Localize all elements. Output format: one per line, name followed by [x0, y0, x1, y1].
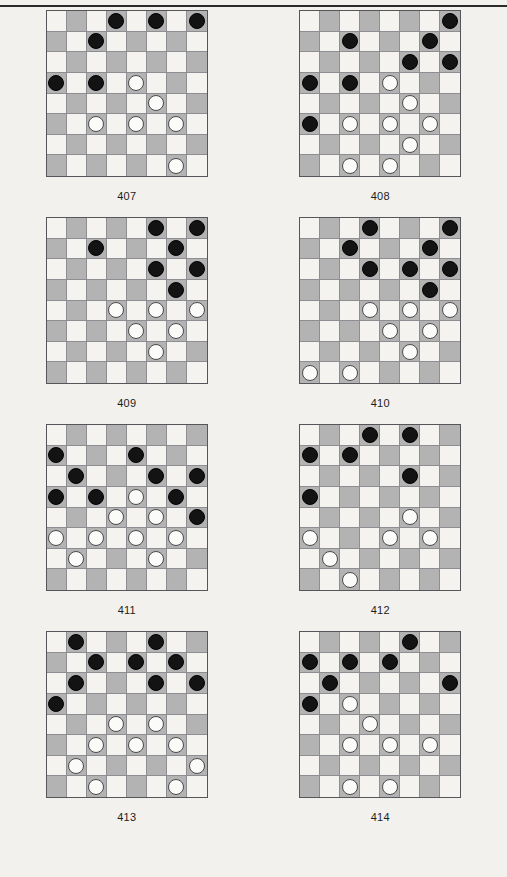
board-square[interactable] [187, 776, 207, 797]
board-square[interactable] [440, 776, 460, 797]
board-square[interactable] [320, 569, 340, 590]
board-square[interactable] [440, 653, 460, 674]
board-square[interactable] [400, 549, 420, 570]
checkers-board[interactable] [46, 10, 208, 177]
board-square[interactable] [340, 446, 360, 467]
board-square[interactable] [167, 280, 187, 301]
board-square[interactable] [380, 446, 400, 467]
board-square[interactable] [420, 321, 440, 342]
board-square[interactable] [300, 528, 320, 549]
board-square[interactable] [67, 321, 87, 342]
board-square[interactable] [380, 425, 400, 446]
board-square[interactable] [87, 694, 107, 715]
board-square[interactable] [440, 114, 460, 135]
board-square[interactable] [167, 135, 187, 156]
board-square[interactable] [87, 342, 107, 363]
board-square[interactable] [147, 653, 167, 674]
board-square[interactable] [47, 362, 67, 383]
board-square[interactable] [320, 259, 340, 280]
board-square[interactable] [320, 528, 340, 549]
board-square[interactable] [127, 632, 147, 653]
board-square[interactable] [300, 756, 320, 777]
board-square[interactable] [67, 569, 87, 590]
board-square[interactable] [420, 52, 440, 73]
board-square[interactable] [380, 52, 400, 73]
board-square[interactable] [87, 114, 107, 135]
board-square[interactable] [360, 342, 380, 363]
black-checker-piece[interactable] [422, 240, 438, 256]
board-square[interactable] [320, 218, 340, 239]
white-checker-piece[interactable] [168, 737, 184, 753]
white-checker-piece[interactable] [342, 572, 358, 588]
board-square[interactable] [440, 155, 460, 176]
board-square[interactable] [167, 694, 187, 715]
board-square[interactable] [340, 425, 360, 446]
board-square[interactable] [87, 735, 107, 756]
white-checker-piece[interactable] [402, 509, 418, 525]
board-square[interactable] [380, 508, 400, 529]
black-checker-piece[interactable] [189, 13, 205, 29]
white-checker-piece[interactable] [168, 158, 184, 174]
white-checker-piece[interactable] [342, 737, 358, 753]
board-square[interactable] [360, 508, 380, 529]
board-square[interactable] [167, 52, 187, 73]
board-square[interactable] [147, 259, 167, 280]
board-square[interactable] [300, 321, 320, 342]
board-square[interactable] [420, 259, 440, 280]
board-square[interactable] [107, 735, 127, 756]
board-square[interactable] [187, 52, 207, 73]
board-square[interactable] [147, 694, 167, 715]
board-square[interactable] [340, 11, 360, 32]
board-square[interactable] [360, 280, 380, 301]
board-square[interactable] [400, 73, 420, 94]
board-square[interactable] [320, 425, 340, 446]
board-square[interactable] [167, 487, 187, 508]
board-square[interactable] [380, 342, 400, 363]
board-square[interactable] [127, 11, 147, 32]
board-square[interactable] [400, 218, 420, 239]
board-square[interactable] [67, 114, 87, 135]
board-square[interactable] [400, 694, 420, 715]
board-square[interactable] [167, 321, 187, 342]
board-square[interactable] [340, 549, 360, 570]
board-square[interactable] [420, 653, 440, 674]
board-square[interactable] [47, 694, 67, 715]
black-checker-piece[interactable] [402, 261, 418, 277]
board-square[interactable] [340, 342, 360, 363]
white-checker-piece[interactable] [342, 116, 358, 132]
board-square[interactable] [320, 446, 340, 467]
board-square[interactable] [167, 73, 187, 94]
board-square[interactable] [147, 776, 167, 797]
board-square[interactable] [360, 694, 380, 715]
board-square[interactable] [107, 694, 127, 715]
board-square[interactable] [360, 362, 380, 383]
white-checker-piece[interactable] [442, 302, 458, 318]
board-square[interactable] [147, 528, 167, 549]
black-checker-piece[interactable] [148, 468, 164, 484]
board-square[interactable] [320, 239, 340, 260]
board-square[interactable] [87, 94, 107, 115]
board-square[interactable] [107, 32, 127, 53]
board-square[interactable] [360, 94, 380, 115]
board-square[interactable] [87, 776, 107, 797]
board-square[interactable] [127, 239, 147, 260]
board-square[interactable] [420, 11, 440, 32]
board-square[interactable] [320, 114, 340, 135]
board-square[interactable] [127, 301, 147, 322]
board-square[interactable] [47, 239, 67, 260]
board-square[interactable] [47, 135, 67, 156]
white-checker-piece[interactable] [302, 365, 318, 381]
white-checker-piece[interactable] [402, 137, 418, 153]
board-square[interactable] [47, 342, 67, 363]
board-square[interactable] [440, 569, 460, 590]
black-checker-piece[interactable] [342, 75, 358, 91]
board-square[interactable] [147, 280, 167, 301]
board-square[interactable] [127, 259, 147, 280]
board-square[interactable] [400, 114, 420, 135]
board-square[interactable] [300, 508, 320, 529]
board-square[interactable] [47, 569, 67, 590]
board-square[interactable] [340, 321, 360, 342]
board-square[interactable] [320, 301, 340, 322]
board-square[interactable] [380, 114, 400, 135]
board-square[interactable] [87, 73, 107, 94]
